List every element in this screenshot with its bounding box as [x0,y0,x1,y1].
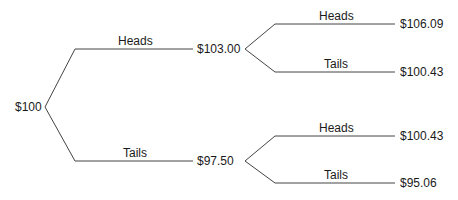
leaf-value: $100.43 [400,129,443,143]
lower-branches [245,136,275,183]
root-value: $100 [15,100,42,114]
branch-label-heads: Heads [319,121,354,135]
leaf-value: $106.09 [400,17,443,31]
tree-lines [0,0,458,200]
branch-label-tails: Tails [324,57,348,71]
root-branches [45,49,75,161]
leaf-value: $100.43 [400,65,443,79]
upper-branches [245,24,275,72]
branch-label-heads: Heads [118,34,153,48]
binomial-tree-diagram: $100 Heads $103.00 Tails $97.50 Heads $1… [0,0,458,200]
branch-label-heads: Heads [319,9,354,23]
node-value: $97.50 [197,154,234,168]
branch-label-tails: Tails [324,168,348,182]
branch-label-tails: Tails [123,146,147,160]
node-value: $103.00 [197,42,240,56]
leaf-value: $95.06 [400,176,437,190]
